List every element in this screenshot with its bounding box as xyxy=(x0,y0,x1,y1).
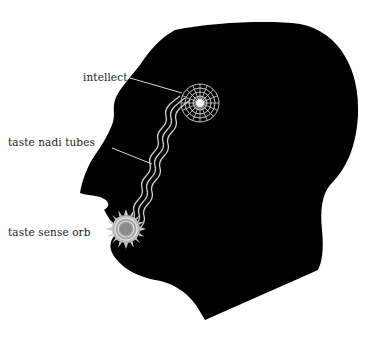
head-silhouette xyxy=(80,22,358,320)
head-diagram xyxy=(0,0,379,340)
label-taste-sense-orb: taste sense orb xyxy=(8,226,91,238)
intellect-orb xyxy=(181,84,219,122)
label-taste-nadi-tubes: taste nadi tubes xyxy=(8,136,95,148)
label-intellect: intellect xyxy=(83,71,127,83)
taste-sense-orb xyxy=(106,209,146,249)
